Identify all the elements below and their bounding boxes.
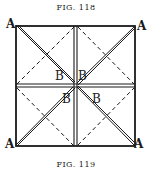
label-inner-bottom-left: B bbox=[62, 92, 71, 106]
figure-caption-bottom: FIG. 119 bbox=[0, 160, 152, 169]
label-corner-top-right: A bbox=[136, 19, 147, 33]
quadrant-bottom-right bbox=[77, 86, 136, 145]
square-diagram: A A A A B B B B bbox=[0, 0, 152, 174]
label-inner-top-left: B bbox=[55, 69, 64, 83]
label-corner-top-left: A bbox=[5, 17, 16, 31]
label-inner-top-right: B bbox=[78, 69, 87, 83]
label-inner-bottom-right: B bbox=[92, 92, 101, 106]
label-corner-bottom-right: A bbox=[133, 137, 144, 151]
label-corner-bottom-left: A bbox=[4, 137, 15, 151]
quadrant-top-left bbox=[16, 25, 75, 84]
